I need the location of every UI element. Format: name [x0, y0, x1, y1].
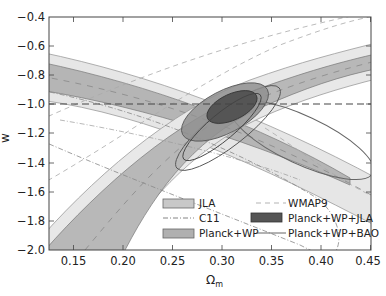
legend-swatch-planck-wp — [163, 229, 194, 238]
legend-swatch-jla — [163, 199, 194, 208]
y-tick-label: −1.4 — [17, 156, 45, 170]
y-tick-label: −1.8 — [17, 214, 45, 228]
y-tick-label: −0.8 — [17, 68, 45, 82]
legend-swatch-planck-wp-jla — [251, 213, 282, 222]
y-tick-label: −0.4 — [17, 10, 45, 24]
y-tick-label: −1.2 — [17, 126, 45, 140]
x-tick-label: 0.45 — [355, 254, 381, 268]
x-tick-label: 0.20 — [110, 254, 136, 268]
x-axis-label: Ωm — [206, 273, 223, 289]
y-tick-label: −0.6 — [17, 39, 45, 53]
x-tick-label: 0.35 — [259, 254, 285, 268]
contour-chart: 0.15 0.20 0.25 0.30 0.35 0.40 0.45 −0.4 … — [0, 0, 386, 296]
plot-area — [30, 10, 383, 262]
legend-label-planck-wp: Planck+WP — [199, 227, 259, 239]
y-tick-label: −1.6 — [17, 185, 45, 199]
legend-label-c11: C11 — [199, 212, 220, 224]
x-tick-label: 0.25 — [160, 254, 186, 268]
y-tick-label: −2.0 — [17, 243, 45, 257]
x-tick-label: 0.40 — [308, 254, 334, 268]
x-tick-label: 0.30 — [209, 254, 235, 268]
legend-label-jla: JLA — [198, 197, 216, 209]
y-tick-label: −1.0 — [17, 97, 45, 111]
x-tick-label: 0.15 — [61, 254, 87, 268]
legend-label-wmap9: WMAP9 — [288, 197, 328, 209]
y-axis-label: w — [0, 133, 12, 143]
legend-label-planck-wp-bao: Planck+WP+BAO — [288, 227, 379, 239]
legend-label-planck-wp-jla: Planck+WP+JLA — [288, 212, 374, 224]
